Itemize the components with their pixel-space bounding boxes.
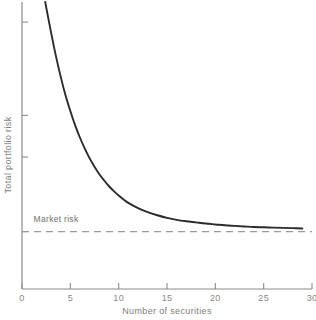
x-axis-tick-label: 0 (19, 293, 24, 303)
x-axis-tick-label: 20 (210, 293, 221, 303)
portfolio-risk-chart: 051015202530 Market risk Number of secur… (0, 0, 316, 320)
x-axis-tick-label: 15 (162, 293, 173, 303)
market-risk-annotation: Market risk (34, 214, 79, 224)
x-axis-title: Number of securities (122, 306, 212, 316)
chart-figure: 051015202530 Market risk Number of secur… (0, 0, 316, 320)
chart-background (0, 0, 316, 320)
x-axis-tick-label: 10 (113, 293, 124, 303)
x-axis-tick-label: 5 (68, 293, 73, 303)
x-axis-tick-label: 25 (258, 293, 269, 303)
x-axis-tick-label: 30 (307, 293, 316, 303)
y-axis-title: Total portfolio risk (3, 116, 13, 193)
